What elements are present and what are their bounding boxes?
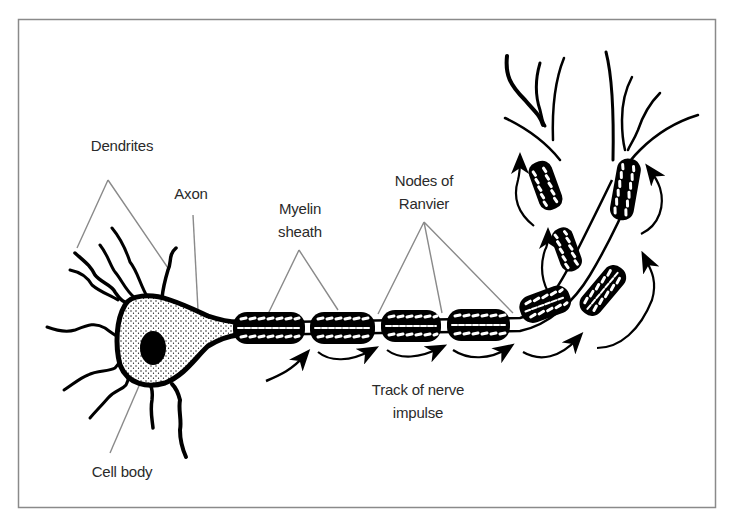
label-nodes-of-ranvier: Nodes of Ranvier [384, 171, 464, 213]
axon-terminals-drawing [505, 52, 698, 165]
label-track-of-nerve-impulse: Track of nerve impulse [362, 380, 474, 422]
label-dendrites: Dendrites [82, 136, 162, 155]
label-myelin-line2: sheath [264, 222, 336, 241]
cell-body-drawing [117, 296, 238, 385]
neuron-illustration [0, 0, 732, 521]
label-nodes-line1: Nodes of [384, 171, 464, 190]
label-track-line2: impulse [362, 403, 474, 422]
label-nodes-line2: Ranvier [384, 194, 464, 213]
label-myelin-sheath: Myelin sheath [264, 199, 336, 241]
label-myelin-line1: Myelin [264, 199, 336, 218]
nucleus-drawing [140, 331, 166, 365]
label-axon: Axon [168, 184, 214, 203]
label-cell-body: Cell body [82, 462, 162, 481]
neuron-diagram: Dendrites Axon Myelin sheath Nodes of Ra… [0, 0, 732, 521]
label-track-line1: Track of nerve [362, 380, 474, 399]
